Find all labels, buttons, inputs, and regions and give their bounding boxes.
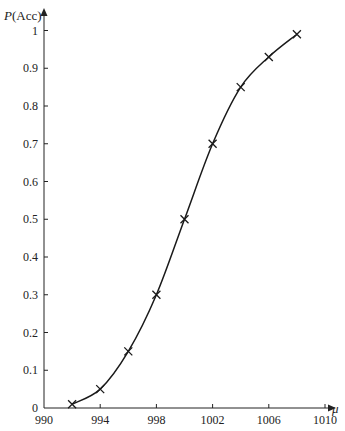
chart: 00.10.20.30.40.50.60.70.80.9199099499810… xyxy=(0,0,345,431)
y-tick-label: 0.8 xyxy=(23,99,38,113)
y-axis-arrow-icon xyxy=(41,8,48,16)
y-tick-label: 0.2 xyxy=(23,326,38,340)
y-tick-label: 0.9 xyxy=(23,61,38,75)
x-marker-icon xyxy=(68,400,76,408)
x-marker-icon xyxy=(152,291,160,299)
x-marker-icon xyxy=(237,83,245,91)
x-marker-icon xyxy=(265,53,273,61)
x-tick-label: 1006 xyxy=(257,413,281,427)
y-tick-label: 0.5 xyxy=(23,212,38,226)
x-marker-icon xyxy=(181,215,189,223)
x-tick-label: 994 xyxy=(91,413,109,427)
y-tick-label: 0.1 xyxy=(23,363,38,377)
x-tick-label: 998 xyxy=(147,413,165,427)
y-tick-label: 0.4 xyxy=(23,250,38,264)
y-tick-label: 1 xyxy=(32,24,38,38)
y-tick-label: 0.7 xyxy=(23,137,38,151)
x-marker-icon xyxy=(96,385,104,393)
data-markers xyxy=(68,30,301,408)
ticks: 00.10.20.30.40.50.60.70.80.9199099499810… xyxy=(23,24,337,428)
y-tick-label: 0.3 xyxy=(23,288,38,302)
x-marker-icon xyxy=(293,30,301,38)
y-tick-label: 0.6 xyxy=(23,175,38,189)
x-tick-label: 990 xyxy=(35,413,53,427)
y-axis-label: P(Acc) xyxy=(3,8,42,23)
x-marker-icon xyxy=(124,347,132,355)
x-marker-icon xyxy=(209,140,217,148)
x-axis-label: μ xyxy=(331,401,339,416)
x-tick-label: 1002 xyxy=(201,413,225,427)
